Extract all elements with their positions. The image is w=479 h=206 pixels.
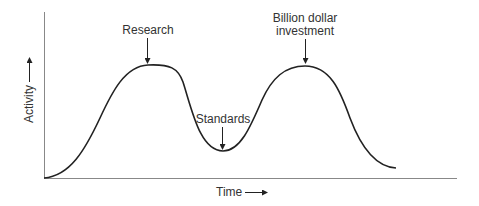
- investment-label-line1: Billion dollar: [273, 11, 338, 25]
- diagram-svg: Research Standards Billion dollar invest…: [0, 0, 479, 206]
- x-axis-label: Time: [216, 185, 243, 199]
- diagram-canvas: Research Standards Billion dollar invest…: [0, 0, 479, 206]
- research-label: Research: [122, 23, 173, 37]
- standards-label: Standards: [196, 112, 251, 126]
- investment-label-line2: investment: [276, 24, 335, 38]
- y-axis-label: Activity: [22, 85, 36, 123]
